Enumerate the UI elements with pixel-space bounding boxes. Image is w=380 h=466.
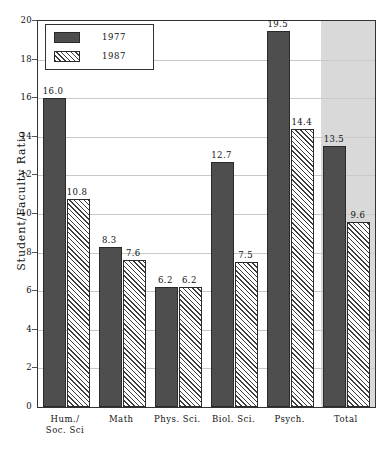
bar-value-label: 16.0 — [43, 86, 64, 96]
y-tick-label: 2 — [8, 362, 32, 372]
bar-value-label: 8.3 — [102, 235, 117, 245]
y-tick-mark — [32, 59, 37, 60]
x-axis-category-label: Biol. Sci. — [212, 414, 255, 425]
y-tick-label: 18 — [8, 54, 32, 64]
bar-value-label: 19.5 — [267, 19, 288, 29]
bar-value-label: 7.6 — [126, 248, 141, 258]
x-axis-category-label: Math — [109, 414, 134, 425]
bar — [267, 31, 290, 407]
y-tick-label: 16 — [8, 92, 32, 102]
plot-area — [37, 20, 376, 408]
x-axis-category-label: Phys. Sci. — [154, 414, 201, 425]
y-tick-mark — [32, 213, 37, 214]
y-axis-tick-labels: 02468101214161820 — [6, 0, 32, 466]
bar — [43, 98, 66, 407]
bar-value-label: 10.8 — [67, 187, 88, 197]
y-tick-mark — [32, 367, 37, 368]
bar-value-label: 6.2 — [182, 275, 197, 285]
bar — [67, 199, 90, 407]
legend-swatch-1987 — [54, 51, 80, 62]
bar-value-label: 12.7 — [211, 150, 232, 160]
bar — [179, 287, 202, 407]
bar — [323, 146, 346, 407]
bar-value-label: 6.2 — [158, 275, 173, 285]
bar — [347, 222, 370, 407]
y-tick-label: 14 — [8, 131, 32, 141]
y-tick-label: 0 — [8, 401, 32, 411]
bar — [99, 247, 122, 407]
y-tick-label: 20 — [8, 15, 32, 25]
y-tick-label: 4 — [8, 324, 32, 334]
x-axis-category-label: Total — [334, 414, 358, 425]
bar-value-label: 13.5 — [324, 134, 345, 144]
y-tick-label: 6 — [8, 285, 32, 295]
x-axis-category-label: Hum./ Soc. Sci — [46, 414, 84, 436]
legend-swatch-1977 — [54, 32, 80, 43]
bar — [211, 162, 234, 407]
chart-legend: 1977 1987 — [45, 24, 154, 70]
y-tick-mark — [32, 97, 37, 98]
y-tick-mark — [32, 252, 37, 253]
bar — [123, 260, 146, 407]
legend-label-1987: 1987 — [102, 51, 126, 61]
gridline — [38, 98, 375, 99]
y-tick-label: 12 — [8, 169, 32, 179]
y-tick-label: 8 — [8, 247, 32, 257]
chart-figure: Student/Faculty Ratio 02468101214161820 … — [0, 0, 380, 466]
legend-label-1977: 1977 — [102, 32, 126, 42]
bar-value-label: 7.5 — [238, 250, 253, 260]
bar-value-label: 14.4 — [291, 117, 312, 127]
bar-value-label: 9.6 — [351, 210, 366, 220]
bar — [155, 287, 178, 407]
y-tick-mark — [32, 20, 37, 21]
y-tick-label: 10 — [8, 208, 32, 218]
y-tick-mark — [32, 174, 37, 175]
y-tick-mark — [32, 136, 37, 137]
x-axis-category-label: Psych. — [274, 414, 305, 425]
y-tick-mark — [32, 329, 37, 330]
y-tick-mark — [32, 290, 37, 291]
bar — [235, 262, 258, 407]
bar — [291, 129, 314, 407]
